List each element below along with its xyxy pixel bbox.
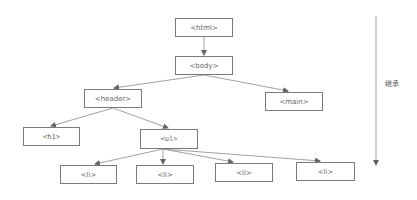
inheritance-label: 继承	[385, 78, 399, 88]
node-body: <body>	[175, 56, 233, 75]
node-main: <main>	[265, 92, 323, 111]
node-header: <header>	[84, 89, 142, 108]
edge-header-h1	[51, 108, 113, 126]
node-h1: <h1>	[23, 127, 80, 146]
node-li-4: <li>	[296, 162, 355, 181]
edge-ul-li1	[95, 149, 163, 164]
edge-ul-li4	[163, 149, 320, 161]
node-ul: <ul>	[140, 129, 198, 149]
node-li-1: <li>	[60, 165, 117, 184]
edge-ul-li3	[163, 149, 233, 162]
edge-body-main	[204, 75, 288, 91]
edge-header-ul	[113, 108, 168, 128]
node-li-2: <li>	[136, 165, 194, 184]
node-li-3: <li>	[215, 163, 273, 182]
edge-body-header	[114, 75, 204, 88]
node-html: <html>	[175, 18, 233, 37]
